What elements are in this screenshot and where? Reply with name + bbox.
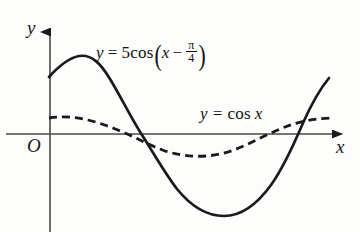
y-axis-label: y [27, 17, 35, 39]
eq-main-amplitude: 5 [122, 43, 131, 62]
curve-cos-x [49, 117, 330, 156]
curve-5cos-x-minus-pi-over-4 [49, 56, 329, 216]
eq-second-equals: = [213, 104, 223, 123]
eq-main-fraction-numerator: π [186, 39, 196, 52]
eq-main-equals: = [108, 43, 118, 62]
x-axis-label: x [336, 136, 344, 158]
plot-area [0, 0, 360, 232]
equation-label-main: y=5cos(x−π4) [96, 38, 206, 72]
eq-main-fraction-denominator: 4 [186, 52, 196, 64]
eq-main-open-paren: ( [154, 38, 161, 72]
eq-main-close-paren: ) [198, 38, 205, 72]
eq-main-y: y [96, 43, 104, 62]
equation-label-second: y=cosx [200, 104, 263, 124]
eq-main-fraction: π4 [186, 39, 196, 64]
origin-label: O [27, 135, 41, 157]
eq-second-y: y [200, 104, 208, 123]
eq-main-variable: x [162, 43, 170, 62]
eq-main-function: cos [130, 43, 153, 62]
eq-second-variable: x [255, 104, 263, 123]
trig-graph-figure: y x O y=5cos(x−π4) y=cosx [0, 0, 360, 232]
eq-main-minus: − [172, 43, 182, 62]
eq-second-function: cos [228, 104, 251, 123]
